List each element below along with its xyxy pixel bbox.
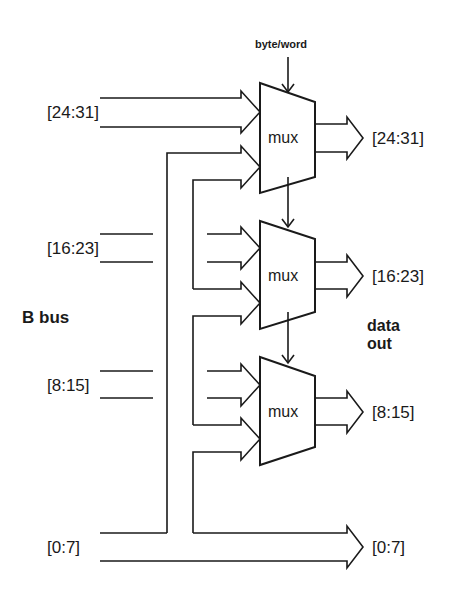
input-label-16-23: [16:23] <box>47 240 99 257</box>
output-label-16-23: [16:23] <box>372 268 424 285</box>
b-bus-label: B bus <box>22 309 69 326</box>
data-out-label-line1: data <box>367 318 400 334</box>
mux-diagram: byte/word [24:31] [16:23] [8:15] [0:7] B… <box>0 0 453 604</box>
output-label-24-31: [24:31] <box>372 130 424 147</box>
input-label-0-7: [0:7] <box>47 539 80 556</box>
mux-1-label: mux <box>268 130 298 146</box>
control-label-byte-word: byte/word <box>255 39 307 50</box>
input-label-8-15: [8:15] <box>47 377 90 394</box>
mux-3-label: mux <box>268 404 298 420</box>
mux-2-label: mux <box>268 268 298 284</box>
output-label-0-7: [0:7] <box>372 539 405 556</box>
output-label-8-15: [8:15] <box>372 404 415 421</box>
data-out-label-line2: out <box>367 336 392 352</box>
input-label-24-31: [24:31] <box>47 104 99 121</box>
diagram-wires <box>0 0 453 604</box>
